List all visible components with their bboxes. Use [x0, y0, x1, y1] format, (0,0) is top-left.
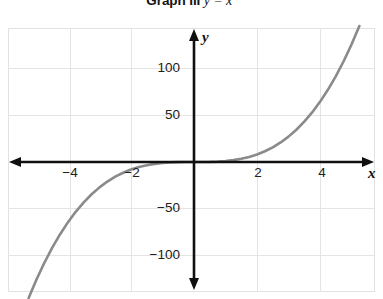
- y-axis-label: y: [202, 29, 209, 46]
- x-axis-label: x: [368, 165, 376, 182]
- x-axis-arrow-left: [9, 157, 21, 167]
- x-tick-label-2: 2: [236, 165, 280, 180]
- y-axis-arrow-up: [189, 29, 199, 41]
- y-tick-label-50: 50: [128, 107, 180, 122]
- chart-root: Graph III y = x3 100 50 −50 −100 −4 −2 2…: [0, 0, 383, 299]
- y-tick-label-100: 100: [128, 60, 180, 75]
- x-tick-label-neg4: −4: [48, 165, 92, 180]
- axes-and-curve: [0, 0, 383, 299]
- x-tick-label-neg2: −2: [110, 165, 154, 180]
- y-tick-label-neg100: −100: [120, 247, 180, 262]
- y-axis-arrow-down: [189, 278, 199, 290]
- y-tick-label-neg50: −50: [128, 200, 180, 215]
- x-tick-label-4: 4: [300, 165, 344, 180]
